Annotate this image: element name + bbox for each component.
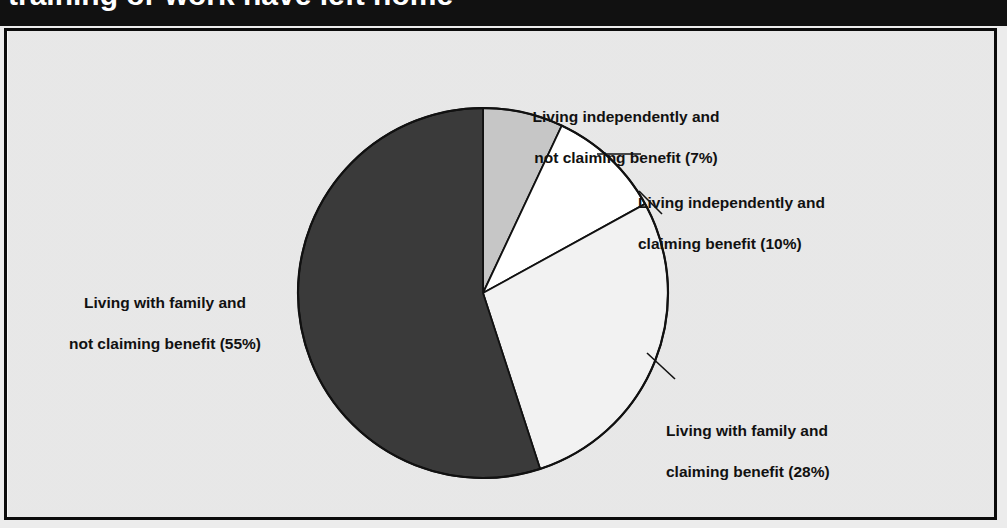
page-title: training or work have left home (8, 0, 453, 12)
chart-screenshot: training or work have left home Living i… (0, 0, 1007, 528)
slice-label-line2: not claiming benefit (55%) (19, 334, 311, 354)
slice-label-line1: Living with family and (19, 293, 311, 313)
slice-label-line1: Living independently and (638, 193, 978, 213)
title-band: training or work have left home (0, 0, 1007, 26)
slice-label-line2: claiming benefit (28%) (666, 462, 976, 482)
slice-label-family-claiming: Living with family and claiming benefit … (666, 401, 976, 503)
chart-panel: Living independently and not claiming be… (4, 28, 997, 520)
slice-label-line2: claiming benefit (10%) (638, 234, 978, 254)
slice-label-independent-claiming: Living independently and claiming benefi… (638, 173, 978, 275)
slice-label-line1: Living independently and (491, 107, 761, 127)
slice-label-family-no-benefit: Living with family and not claiming bene… (19, 273, 311, 375)
slice-label-line1: Living with family and (666, 421, 976, 441)
slice-label-line2: not claiming benefit (7%) (491, 148, 761, 168)
